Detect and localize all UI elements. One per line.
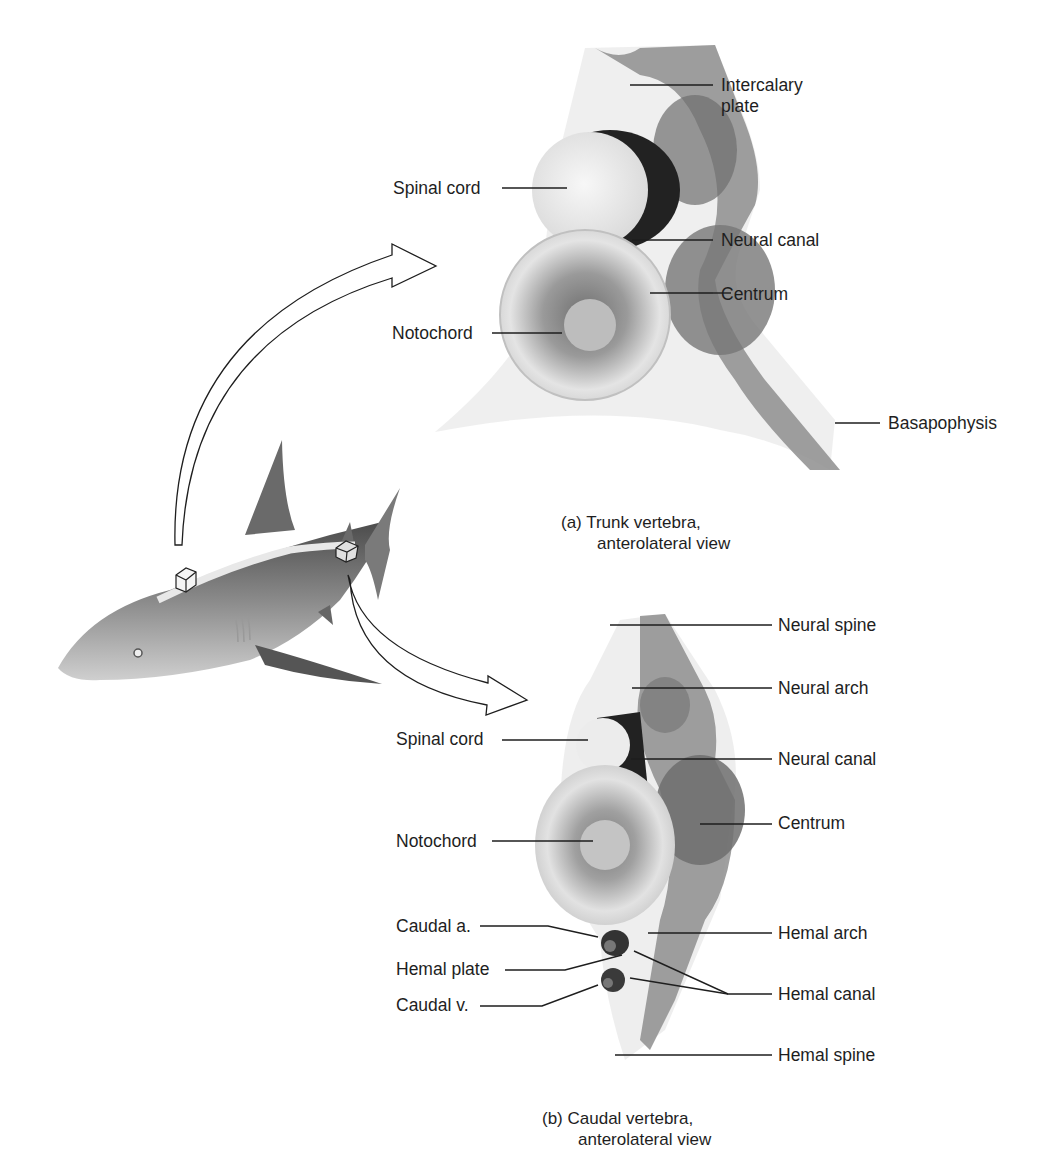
arrow-to-caudal	[348, 575, 527, 715]
label-spinal-cord-a: Spinal cord	[393, 178, 481, 199]
label-caudal-artery: Caudal a.	[396, 916, 471, 937]
label-centrum-b: Centrum	[778, 813, 845, 834]
caudal-vertebra-illustration	[535, 614, 745, 1060]
caption-panel-b: (b) Caudal vertebra, anterolateral view	[542, 1108, 711, 1150]
label-spinal-cord-b: Spinal cord	[396, 729, 484, 750]
label-intercalary-line1: Intercalary	[721, 75, 803, 95]
label-notochord-a: Notochord	[392, 323, 473, 344]
label-neural-arch: Neural arch	[778, 678, 868, 699]
shark-illustration	[58, 440, 400, 684]
label-basapophysis: Basapophysis	[888, 413, 997, 434]
label-hemal-arch: Hemal arch	[778, 923, 867, 944]
label-neural-canal-a: Neural canal	[721, 230, 819, 251]
caption-a-line2: anterolateral view	[561, 533, 730, 554]
label-centrum-a: Centrum	[721, 284, 788, 305]
label-neural-canal-b: Neural canal	[778, 749, 876, 770]
label-hemal-canal: Hemal canal	[778, 984, 875, 1005]
label-hemal-spine: Hemal spine	[778, 1045, 875, 1066]
caption-panel-a: (a) Trunk vertebra, anterolateral view	[561, 512, 730, 554]
label-caudal-vein: Caudal v.	[396, 995, 469, 1016]
label-hemal-plate: Hemal plate	[396, 959, 489, 980]
caption-b-line1: (b) Caudal vertebra,	[542, 1109, 693, 1128]
arrow-to-trunk	[175, 244, 436, 545]
label-neural-spine: Neural spine	[778, 615, 876, 636]
label-intercalary-line2: plate	[721, 96, 759, 116]
label-notochord-b: Notochord	[396, 831, 477, 852]
diagram-artwork	[0, 0, 1058, 1167]
caption-a-line1: (a) Trunk vertebra,	[561, 513, 701, 532]
label-intercalary-plate: Intercalary plate	[721, 75, 803, 117]
caption-b-line2: anterolateral view	[542, 1129, 711, 1150]
